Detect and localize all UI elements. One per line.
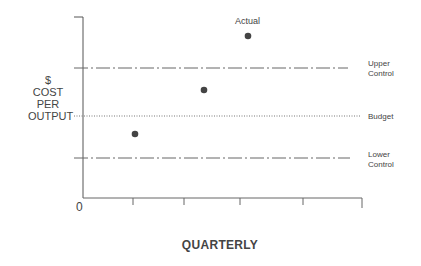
data-point-1 [132, 131, 139, 138]
y-label-line-4: OUTPUT [28, 110, 68, 122]
chart-canvas [0, 0, 421, 266]
data-point-3 [245, 33, 252, 40]
y-label-line-3: PER [28, 98, 68, 110]
actual-annotation: Actual [235, 16, 260, 26]
lower-label-line-2: Control [368, 160, 394, 170]
y-label-line-2: COST [28, 86, 68, 98]
y-axis-label: $ COST PER OUTPUT [28, 74, 68, 122]
upper-label-line-2: Control [368, 69, 394, 79]
x-axis-label: QUARTERLY [150, 238, 290, 252]
lower-control-label: Lower Control [368, 150, 394, 170]
origin-label: 0 [76, 200, 83, 214]
data-point-2 [201, 87, 208, 94]
upper-label-line-1: Upper [368, 59, 394, 69]
lower-label-line-1: Lower [368, 150, 394, 160]
budget-label: Budget [368, 112, 393, 122]
x-axis-ticks [133, 198, 362, 208]
upper-control-label: Upper Control [368, 59, 394, 79]
y-label-line-1: $ [28, 74, 68, 86]
